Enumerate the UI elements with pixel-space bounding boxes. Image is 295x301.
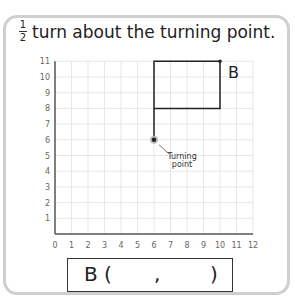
turning-point-label-2: point <box>172 160 192 169</box>
y-tick-label: 2 <box>45 199 50 208</box>
point-b-label: B <box>228 63 239 82</box>
answer-suffix: ) <box>210 262 218 286</box>
y-tick-label: 1 <box>45 214 50 223</box>
y-tick-label: 11 <box>40 57 50 66</box>
x-tick-label: 1 <box>69 241 74 250</box>
x-tick-label: 2 <box>85 241 90 250</box>
y-tick-label: 5 <box>45 152 50 161</box>
x-tick-label: 12 <box>248 241 258 250</box>
answer-comma: , <box>154 262 160 286</box>
y-tick-label: 3 <box>45 183 50 192</box>
x-tick-label: 11 <box>231 241 241 250</box>
y-tick-label: 8 <box>45 104 50 113</box>
x-tick-label: 3 <box>102 241 107 250</box>
y-tick-label: 7 <box>45 120 50 129</box>
answer-box[interactable]: B ( , ) <box>67 258 233 292</box>
x-tick-label: 9 <box>201 241 206 250</box>
coordinate-grid: 01234567891011121234567891011 B Turning … <box>0 0 295 301</box>
y-tick-label: 4 <box>45 167 50 176</box>
y-tick-label: 6 <box>45 136 50 145</box>
answer-prefix: B ( <box>84 262 112 286</box>
y-tick-label: 10 <box>40 73 50 82</box>
x-tick-label: 0 <box>52 241 57 250</box>
x-tick-label: 8 <box>184 241 189 250</box>
x-tick-label: 4 <box>118 241 123 250</box>
tick-labels: 01234567891011121234567891011 <box>40 57 258 250</box>
turning-point-dot <box>152 138 156 142</box>
x-tick-label: 6 <box>151 241 156 250</box>
point-b-dot <box>218 60 222 64</box>
x-tick-label: 5 <box>135 241 140 250</box>
y-tick-label: 9 <box>45 89 50 98</box>
x-tick-label: 10 <box>215 241 225 250</box>
x-tick-label: 7 <box>168 241 173 250</box>
